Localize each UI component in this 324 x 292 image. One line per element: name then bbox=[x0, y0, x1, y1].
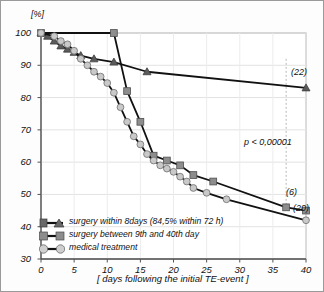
x-axis-tick-label: 25 bbox=[196, 264, 218, 275]
data-point-marker bbox=[163, 165, 170, 172]
triangle-marker-icon bbox=[39, 217, 65, 229]
y-axis-tick-label: 70 bbox=[9, 124, 31, 135]
legend-label: medical treatment bbox=[69, 242, 137, 252]
data-point-marker bbox=[157, 162, 164, 169]
x-axis-tick-label: 15 bbox=[129, 264, 151, 275]
y-axis-tick-label: 50 bbox=[9, 188, 31, 199]
data-point-marker bbox=[91, 68, 98, 75]
data-point-marker bbox=[64, 41, 71, 48]
legend-item-surgery-9th-40th-day: surgery between 9th and 40th day bbox=[39, 230, 239, 242]
y-axis-tick-label: 100 bbox=[9, 27, 31, 38]
data-point-marker bbox=[203, 189, 210, 196]
data-point-marker bbox=[223, 196, 230, 203]
data-point-marker bbox=[117, 104, 124, 111]
annotation-count-22: (22) bbox=[291, 67, 307, 77]
data-point-marker bbox=[190, 185, 197, 192]
legend-item-medical-treatment: medical treatment bbox=[39, 243, 239, 255]
chart-legend: surgery within 8days (84,5% within 72 h)… bbox=[39, 217, 239, 257]
p-value-annotation: p < 0,00001 bbox=[244, 137, 292, 147]
data-point-marker bbox=[110, 30, 117, 37]
y-axis-tick-label: 60 bbox=[9, 156, 31, 167]
data-point-marker bbox=[110, 89, 117, 96]
circle-marker-icon bbox=[39, 243, 65, 255]
data-point-marker bbox=[104, 80, 111, 87]
data-point-marker bbox=[137, 118, 144, 125]
square-marker-icon bbox=[39, 230, 65, 242]
chart-figure: [%] [ days following the initial TE-even… bbox=[0, 0, 324, 292]
data-point-marker bbox=[84, 62, 91, 69]
data-point-marker bbox=[170, 168, 177, 175]
data-point-marker bbox=[177, 173, 184, 180]
annotation-count-20: (20) bbox=[293, 203, 309, 213]
x-axis-tick-label: 35 bbox=[262, 264, 284, 275]
data-point-marker bbox=[190, 172, 197, 179]
x-axis-tick-label: 5 bbox=[63, 264, 85, 275]
x-axis-tick-label: 30 bbox=[229, 264, 251, 275]
data-point-marker bbox=[144, 151, 151, 158]
x-axis-tick-label: 40 bbox=[295, 264, 317, 275]
data-point-marker bbox=[124, 88, 131, 95]
x-axis-tick-label: 10 bbox=[96, 264, 118, 275]
x-axis-tick-label: 20 bbox=[163, 264, 185, 275]
data-point-marker bbox=[283, 204, 290, 211]
data-point-marker bbox=[57, 38, 64, 45]
data-point-marker bbox=[183, 178, 190, 185]
data-point-marker bbox=[71, 47, 78, 54]
data-point-marker bbox=[51, 33, 58, 40]
data-point-marker bbox=[97, 73, 104, 80]
y-axis-tick-label: 30 bbox=[9, 253, 31, 264]
data-point-marker bbox=[163, 157, 170, 164]
y-axis-tick-label: 40 bbox=[9, 221, 31, 232]
y-axis-tick-label: 80 bbox=[9, 92, 31, 103]
data-point-marker bbox=[150, 157, 157, 164]
annotation-count-6: (6) bbox=[286, 187, 297, 197]
x-axis-tick-label: 0 bbox=[30, 264, 52, 275]
legend-label: surgery between 9th and 40th day bbox=[69, 229, 199, 239]
data-point-marker bbox=[77, 55, 84, 62]
data-point-marker bbox=[124, 118, 131, 125]
data-point-marker bbox=[130, 133, 137, 140]
data-point-marker bbox=[177, 162, 184, 169]
data-point-marker bbox=[303, 217, 310, 224]
legend-item-surgery-within-8-days: surgery within 8days (84,5% within 72 h) bbox=[39, 217, 239, 229]
data-point-marker bbox=[38, 30, 45, 37]
data-point-marker bbox=[210, 178, 217, 185]
y-axis-unit-label: [%] bbox=[31, 9, 44, 19]
legend-label: surgery within 8days (84,5% within 72 h) bbox=[69, 216, 223, 226]
y-axis-tick-label: 90 bbox=[9, 59, 31, 70]
data-point-marker bbox=[137, 141, 144, 148]
